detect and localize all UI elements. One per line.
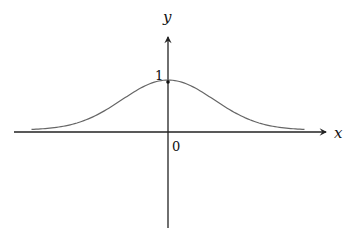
- function-graph: x y 0 1: [0, 0, 351, 240]
- x-axis-label: x: [334, 124, 343, 142]
- y-axis-label: y: [162, 8, 172, 26]
- origin-label: 0: [172, 139, 180, 154]
- peak-label: 1: [155, 68, 163, 83]
- peak-point: [166, 80, 170, 84]
